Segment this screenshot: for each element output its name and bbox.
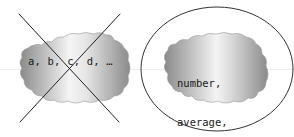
descriptive-name-line: average,: [177, 116, 228, 129]
variable-names-label: a, b, c, d, …: [28, 55, 113, 68]
descriptive-name-line: number,: [177, 77, 228, 90]
diagram-graphics: [0, 0, 294, 137]
descriptive-names-label: number, average, sum, …: [177, 51, 228, 137]
diagram: a, b, c, d, … number, average, sum, …: [0, 0, 294, 137]
